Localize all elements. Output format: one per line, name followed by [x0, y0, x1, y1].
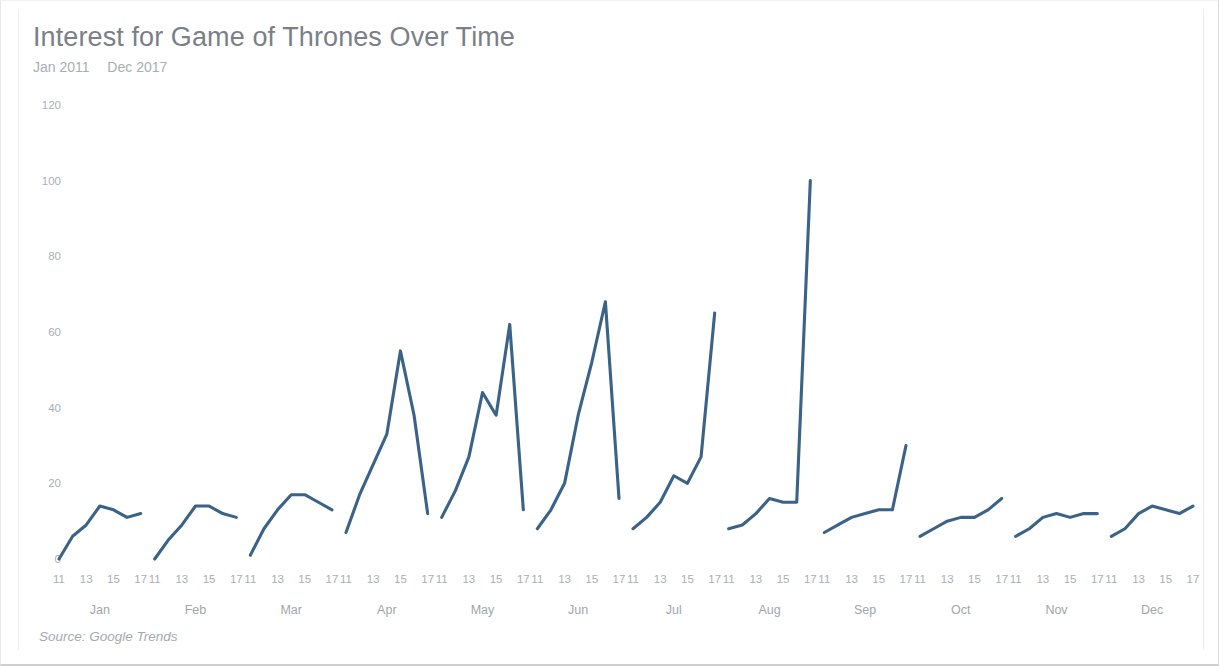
x-axis-year-tick: 13 — [845, 573, 858, 585]
x-axis-year-tick: 11 — [53, 573, 65, 585]
x-axis-year-tick: 13 — [175, 573, 188, 585]
source-note: Source: Google Trends — [39, 629, 178, 644]
x-axis-year-tick: 11 — [1010, 573, 1022, 585]
x-axis-year-tick: 13 — [271, 573, 284, 585]
x-axis-year-tick: 11 — [340, 573, 352, 585]
x-axis-year-tick: 15 — [1159, 573, 1172, 585]
x-axis-month-label-dec: Dec — [1141, 603, 1163, 617]
x-axis-year-tick: 13 — [749, 573, 762, 585]
x-axis-year-tick: 11 — [436, 573, 448, 585]
x-axis-year-tick: 17 — [230, 573, 243, 585]
x-axis-year-tick: 15 — [394, 573, 407, 585]
x-axis-year-tick: 13 — [1132, 573, 1145, 585]
x-axis-month-label-feb: Feb — [185, 603, 207, 617]
x-axis-year-tick: 11 — [149, 573, 161, 585]
x-axis-year-tick: 17 — [134, 573, 147, 585]
x-axis-year-tick: 13 — [367, 573, 380, 585]
x-axis-year-tick: 15 — [1064, 573, 1077, 585]
x-axis-year-tick: 15 — [203, 573, 216, 585]
x-axis-year-tick: 15 — [107, 573, 120, 585]
x-axis-month-label-nov: Nov — [1045, 603, 1067, 617]
x-axis-month-label-mar: Mar — [280, 603, 302, 617]
x-axis-year-tick: 17 — [326, 573, 339, 585]
x-axis-year-tick: 13 — [654, 573, 667, 585]
x-axis-year-tick: 15 — [298, 573, 311, 585]
x-axis-year-tick: 13 — [80, 573, 93, 585]
x-axis-month-label-jan: Jan — [90, 603, 110, 617]
x-axis-year-tick: 15 — [585, 573, 598, 585]
x-axis-month-label-oct: Oct — [951, 603, 970, 617]
x-axis-year-tick: 17 — [517, 573, 530, 585]
x-axis-year-tick: 11 — [627, 573, 639, 585]
x-axis-year-tick: 17 — [900, 573, 913, 585]
x-axis-year-tick: 17 — [1187, 573, 1200, 585]
x-axis-year-tick: 11 — [244, 573, 256, 585]
x-axis-year-tick: 15 — [968, 573, 981, 585]
x-axis-year-tick: 13 — [462, 573, 475, 585]
x-axis-year-tick: 11 — [531, 573, 543, 585]
x-axis-year-tick: 15 — [872, 573, 885, 585]
x-axis-year-tick: 17 — [421, 573, 434, 585]
x-axis: 11131517Jan11131517Feb11131517Mar1113151… — [1, 1, 1219, 666]
x-axis-year-tick: 17 — [613, 573, 626, 585]
x-axis-year-tick: 13 — [1036, 573, 1049, 585]
x-axis-year-tick: 17 — [804, 573, 817, 585]
x-axis-month-label-sep: Sep — [854, 603, 876, 617]
chart-card: Interest for Game of Thrones Over Time J… — [0, 0, 1219, 666]
x-axis-year-tick: 15 — [490, 573, 503, 585]
x-axis-month-label-aug: Aug — [758, 603, 780, 617]
x-axis-month-label-may: May — [471, 603, 495, 617]
x-axis-year-tick: 11 — [723, 573, 735, 585]
x-axis-month-label-jul: Jul — [666, 603, 682, 617]
x-axis-year-tick: 15 — [777, 573, 790, 585]
x-axis-month-label-jun: Jun — [568, 603, 588, 617]
x-axis-year-tick: 17 — [708, 573, 721, 585]
x-axis-year-tick: 11 — [1105, 573, 1117, 585]
x-axis-month-label-apr: Apr — [377, 603, 396, 617]
x-axis-year-tick: 11 — [818, 573, 830, 585]
x-axis-year-tick: 13 — [558, 573, 571, 585]
x-axis-year-tick: 17 — [995, 573, 1008, 585]
x-axis-year-tick: 13 — [941, 573, 954, 585]
x-axis-year-tick: 17 — [1091, 573, 1104, 585]
x-axis-year-tick: 15 — [681, 573, 694, 585]
x-axis-year-tick: 11 — [914, 573, 926, 585]
plot-area: 020406080100120 11131517Jan11131517Feb11… — [1, 1, 1219, 666]
